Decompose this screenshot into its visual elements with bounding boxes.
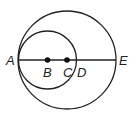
label-c: C	[63, 65, 73, 80]
label-b: B	[43, 65, 52, 80]
label-e: E	[119, 53, 128, 68]
geometry-diagram: A B C D E	[0, 0, 134, 119]
point-b-dot	[45, 57, 51, 63]
label-d: D	[77, 65, 86, 80]
point-c-dot	[64, 57, 70, 63]
label-a: A	[5, 53, 15, 68]
